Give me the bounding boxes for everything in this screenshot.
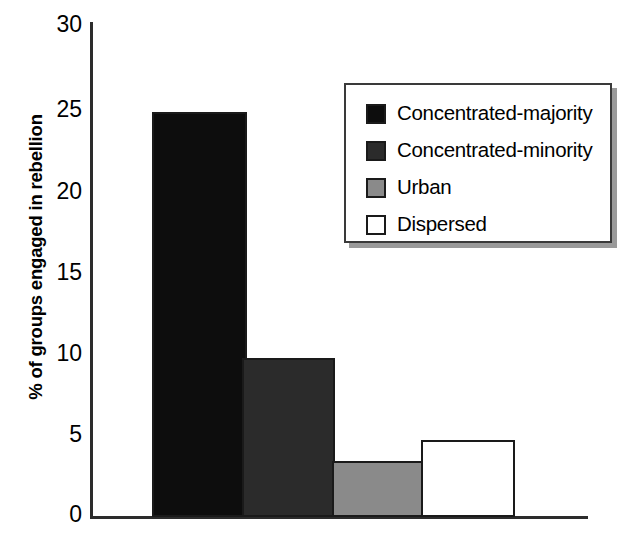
legend-label-concentrated-majority: Concentrated-majority bbox=[397, 103, 592, 124]
legend: Concentrated-majority Concentrated-minor… bbox=[344, 83, 612, 243]
legend-item-concentrated-majority: Concentrated-majority bbox=[366, 95, 610, 132]
legend-swatch-icon-concentrated-minority bbox=[366, 141, 386, 161]
bar-chart: % of groups engaged in rebellion 30 25 2… bbox=[0, 0, 636, 539]
bar-concentrated-majority bbox=[152, 112, 247, 517]
bar-dispersed bbox=[421, 440, 515, 517]
bar-urban bbox=[332, 461, 423, 517]
legend-item-urban: Urban bbox=[366, 169, 610, 206]
bar-concentrated-minority bbox=[242, 358, 335, 517]
legend-swatch-icon-concentrated-majority bbox=[366, 104, 386, 124]
plot-area bbox=[0, 0, 636, 539]
legend-label-urban: Urban bbox=[397, 177, 451, 198]
legend-label-dispersed: Dispersed bbox=[397, 214, 487, 235]
legend-item-dispersed: Dispersed bbox=[366, 206, 610, 243]
legend-label-concentrated-minority: Concentrated-minority bbox=[397, 140, 592, 161]
legend-swatch-icon-urban bbox=[366, 178, 386, 198]
legend-item-concentrated-minority: Concentrated-minority bbox=[366, 132, 610, 169]
legend-swatch-icon-dispersed bbox=[366, 215, 386, 235]
